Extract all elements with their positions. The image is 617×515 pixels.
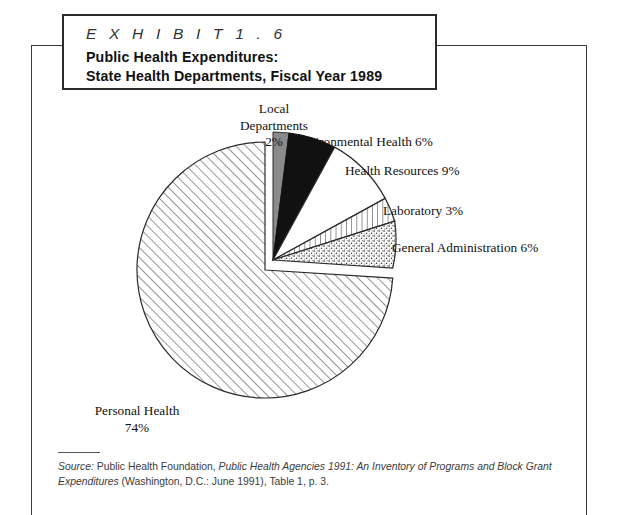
source-note-text-1: Public Health Foundation, [94, 461, 219, 472]
pie-label-laboratory: Laboratory 3% [383, 203, 463, 220]
pie-label-local-departments-line1: Local [259, 101, 289, 116]
pie-exploded-group [273, 132, 396, 268]
pie-label-health-resources: Health Resources 9% [345, 163, 459, 180]
pie-label-general-administration: General Administration 6% [392, 240, 538, 257]
pie-label-local-departments-pct: 2% [265, 134, 283, 149]
source-note: Source: Public Health Foundation, Public… [58, 460, 578, 490]
pie-label-local-departments-line2: Departments [240, 118, 308, 133]
source-note-prefix: Source: [58, 461, 94, 472]
pie-label-personal-health: Personal Health 74% [82, 403, 192, 436]
pie-label-personal-health-name: Personal Health [95, 403, 180, 418]
source-divider-rule [58, 452, 100, 453]
pie-chart-svg [0, 0, 617, 445]
pie-chart-figure: Local Departments 2% Environmental Healt… [0, 0, 617, 445]
pie-label-personal-health-pct: 74% [125, 420, 149, 435]
pie-label-environmental-health: Environmental Health 6% [294, 134, 433, 151]
source-note-text-2: (Washington, D.C.: June 1991), Table 1, … [119, 476, 329, 487]
